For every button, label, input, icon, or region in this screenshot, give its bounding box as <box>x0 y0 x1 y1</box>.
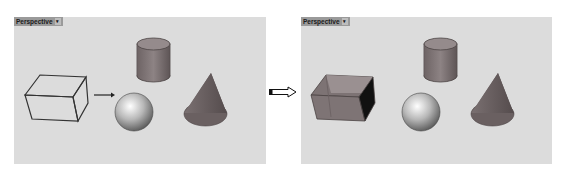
transition-arrow-icon <box>268 86 298 98</box>
cone <box>184 73 227 126</box>
sphere <box>115 93 153 131</box>
cone <box>471 73 514 126</box>
viewport-label[interactable]: Perspective ▾ <box>301 17 350 26</box>
left-scene <box>14 17 266 164</box>
right-viewport[interactable]: Perspective ▾ <box>301 17 552 164</box>
shaded-box <box>311 75 375 121</box>
cylinder <box>424 38 457 82</box>
arrow-icon <box>94 93 115 98</box>
cylinder <box>137 38 170 82</box>
chevron-down-icon[interactable]: ▾ <box>342 18 348 25</box>
left-viewport[interactable]: Perspective ▾ <box>14 17 266 164</box>
viewport-label[interactable]: Perspective ▾ <box>14 17 63 26</box>
right-scene <box>301 17 552 164</box>
wireframe-box <box>25 75 88 121</box>
sphere <box>402 93 440 131</box>
chevron-down-icon[interactable]: ▾ <box>55 18 61 25</box>
